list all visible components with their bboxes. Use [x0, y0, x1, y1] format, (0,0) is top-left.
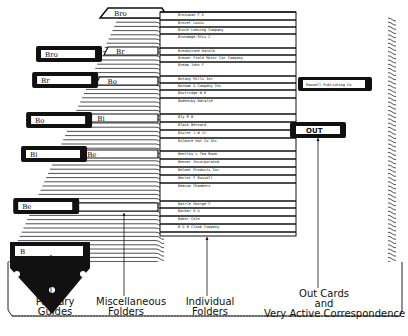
- file-edge-right: [388, 215, 396, 218]
- file-edge-right: [388, 119, 396, 122]
- file-edge-right: [388, 182, 396, 185]
- misc-folder-tab: [96, 77, 158, 85]
- file-edge-right: [388, 123, 396, 126]
- file-edge-line: [29, 215, 164, 218]
- folder-label: Baker Cole: [178, 217, 200, 221]
- file-edge-line: [50, 169, 164, 172]
- guide-rod-hole: [14, 271, 20, 277]
- caption-out-cards: Out Cards and Very Active Correspondence: [264, 289, 384, 319]
- file-edge-right: [388, 106, 396, 109]
- file-edge-right: [388, 43, 396, 46]
- primary-guide-label: Bi: [30, 151, 38, 159]
- file-edge-right: [388, 173, 396, 176]
- file-edge-line: [107, 43, 164, 46]
- folder-label: Bly R B: [178, 115, 193, 119]
- file-edge-right: [388, 73, 396, 76]
- file-edge-line: [22, 232, 164, 235]
- file-edge-right: [388, 186, 396, 189]
- file-edge-right: [388, 232, 396, 235]
- folder-label: Breakstone Harold: [178, 49, 215, 53]
- misc-folder-label: Be: [87, 151, 96, 159]
- file-edge-right: [388, 236, 396, 239]
- file-edge-right: [388, 220, 396, 223]
- file-edge-line: [80, 102, 164, 105]
- primary-guide: Bro: [36, 46, 102, 62]
- arrow-out-cards-head: [317, 138, 320, 141]
- file-edge-right: [388, 249, 396, 252]
- file-edge-line: [95, 68, 164, 71]
- folder-label: Brewer Field Motor Car Company: [178, 56, 244, 60]
- file-edge-line: [52, 165, 164, 168]
- misc-folder: Bi: [85, 114, 158, 123]
- file-edge-right: [388, 194, 396, 197]
- folder-label: Beacon Chambers: [178, 184, 210, 188]
- misc-folder-label: Bo: [108, 78, 117, 86]
- folder-label: Bruce Leasing Company: [178, 28, 224, 32]
- file-edge-right: [388, 68, 396, 71]
- file-edge-right: [388, 190, 396, 193]
- primary-guide-label: Be: [22, 203, 31, 211]
- caption-primary-guides: Primary Guides: [30, 297, 80, 317]
- file-edge-right: [388, 203, 396, 206]
- folder-label: Barber D A: [178, 209, 200, 213]
- file-edge-right: [388, 85, 396, 88]
- caption-line: Very Active Correspondence: [264, 309, 384, 319]
- file-edge-line: [97, 64, 164, 67]
- file-edge-right: [388, 110, 396, 113]
- caption-misc-folders: Miscellaneous Folders: [96, 297, 156, 317]
- file-edge-line: [78, 106, 164, 109]
- misc-folder-tab: [104, 47, 158, 55]
- primary-guide-label: Bo: [35, 117, 44, 125]
- file-edge-line: [109, 39, 164, 42]
- file-edge-right: [388, 131, 396, 134]
- misc-folder-label: Bi: [97, 115, 105, 123]
- file-edge-right: [388, 31, 396, 34]
- folder-label: Bodensky Natalie: [178, 99, 213, 103]
- file-edge-line: [44, 182, 164, 185]
- file-edge-right: [388, 102, 396, 105]
- folder-label: Benner Incorporated: [178, 160, 219, 164]
- file-edge-right: [388, 115, 396, 118]
- file-edge-right: [388, 199, 396, 202]
- file-edge-line: [116, 22, 164, 25]
- file-edge-line: [86, 89, 164, 92]
- misc-folder: Br: [104, 47, 158, 56]
- file-edge-line: [27, 220, 164, 223]
- individual-folders-column: Brossman F EBrozel LouisBruce Leasing Co…: [160, 12, 296, 236]
- file-edge-right: [388, 211, 396, 214]
- file-edge-line: [65, 136, 164, 139]
- file-edge-right: [388, 152, 396, 155]
- folder-label: Battle George F: [178, 202, 210, 206]
- file-edge-right: [388, 253, 396, 256]
- file-edge-line: [84, 94, 164, 97]
- caption-line: Guides: [30, 307, 80, 317]
- file-edge-right: [388, 52, 396, 55]
- file-edge-right: [388, 98, 396, 101]
- folder-label: Borman & Company Inc: [178, 84, 221, 88]
- file-edge-right: [388, 178, 396, 181]
- file-edge-line: [82, 98, 164, 101]
- primary-guide: Bi: [21, 146, 87, 162]
- folder-label: Black Bernard: [178, 123, 206, 127]
- file-edge-line: [20, 236, 164, 239]
- file-edge-right: [388, 161, 396, 164]
- file-edge-right: [388, 64, 396, 67]
- caption-line: Folders: [96, 307, 156, 317]
- file-edge-right: [388, 60, 396, 63]
- file-edge-right: [388, 245, 396, 248]
- folder-label: B & B Cloak Company: [178, 225, 220, 229]
- file-edge-right: [388, 136, 396, 139]
- special-guide-label: Maxwell Publishing Co: [306, 83, 351, 87]
- primary-guide-label: B: [20, 248, 25, 256]
- filing-diagram: BroBrossman F EBrozel LouisBruce Leasing…: [0, 0, 408, 336]
- file-edge-right: [388, 94, 396, 97]
- folder-label: Brundage Otis C: [178, 35, 210, 39]
- out-card-label: OUT: [306, 127, 323, 135]
- misc-folder: Be: [75, 150, 158, 159]
- file-edge-right: [388, 18, 396, 21]
- primary-guide-label-box: [15, 246, 83, 256]
- primary-guide: Bo: [26, 112, 92, 128]
- folder-label: Bilmore Hat Co Inc: [178, 139, 217, 143]
- primary-guide: Be: [13, 198, 79, 214]
- file-edge-line: [48, 173, 164, 176]
